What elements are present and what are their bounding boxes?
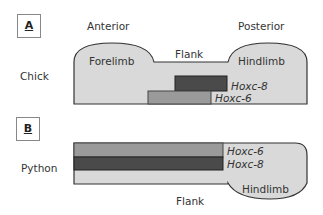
panel-label-b: B: [16, 117, 40, 141]
hindlimb-label-a: Hindlimb: [238, 55, 285, 67]
posterior-label: Posterior: [238, 20, 284, 32]
chick-hoxc6-bar: [148, 91, 211, 104]
gene-label-b-hoxc8: Hoxc-8: [227, 158, 264, 170]
hindlimb-label-b: Hindlimb: [242, 183, 289, 195]
gene-label-b-hoxc6: Hoxc-6: [227, 145, 264, 157]
python-hoxc8-bar: [74, 157, 223, 170]
flank-label-a: Flank: [175, 48, 203, 60]
panel-label-a: A: [17, 14, 41, 38]
organism-chick: Chick: [20, 70, 49, 82]
forelimb-label: Forelimb: [89, 55, 134, 67]
organism-python: Python: [21, 162, 57, 174]
gene-label-a-hoxc8: Hoxc-8: [231, 80, 268, 92]
flank-label-b: Flank: [176, 195, 204, 207]
python-hoxc6-bar: [74, 143, 223, 157]
anterior-label: Anterior: [87, 20, 129, 32]
gene-label-a-hoxc6: Hoxc-6: [215, 92, 252, 104]
chick-hoxc8-bar: [175, 76, 227, 91]
